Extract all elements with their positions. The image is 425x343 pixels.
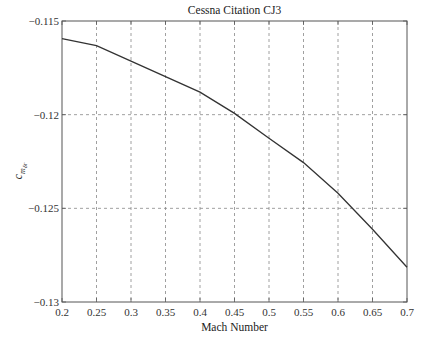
chart-title: Cessna Citation CJ3 — [188, 4, 282, 16]
x-tick-label: 0.5 — [262, 306, 276, 318]
y-tick-label: −0.125 — [28, 202, 59, 214]
y-tick-label: −0.12 — [34, 109, 59, 121]
chart: 0.20.250.30.350.40.450.50.550.60.650.7−0… — [0, 0, 425, 343]
y-tick-label: −0.115 — [28, 15, 59, 27]
x-tick-label: 0.45 — [225, 306, 245, 318]
x-tick-label: 0.55 — [294, 306, 314, 318]
x-tick-label: 0.35 — [156, 306, 176, 318]
y-label-subsub: δr — [21, 162, 28, 168]
x-tick-label: 0.7 — [400, 306, 414, 318]
x-tick-label: 0.65 — [363, 306, 383, 318]
x-axis-label: Mach Number — [201, 321, 268, 333]
axis-ticks: 0.20.250.30.350.40.450.50.550.60.650.7−0… — [28, 15, 414, 318]
x-tick-label: 0.6 — [331, 306, 345, 318]
y-tick-label: −0.13 — [34, 296, 60, 308]
svg-text:cmδr: cmδr — [12, 162, 28, 179]
x-tick-label: 0.3 — [124, 306, 138, 318]
x-tick-label: 0.4 — [193, 306, 207, 318]
grid-lines — [62, 21, 407, 302]
y-axis-label: cmδr — [12, 162, 28, 179]
x-tick-label: 0.25 — [87, 306, 107, 318]
